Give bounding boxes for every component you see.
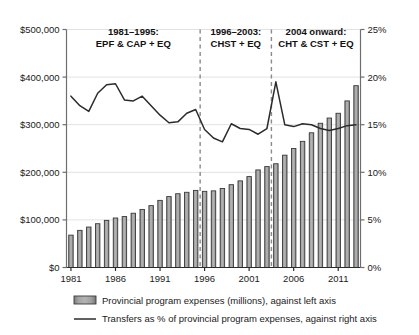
x-tick-label: 2011 <box>328 273 348 284</box>
transfers-vs-program-expenses-chart: $0$100,000$200,000$300,000$400,000$500,0… <box>0 0 419 335</box>
bar <box>256 170 260 268</box>
legend-item-line: Transfers as % of provincial program exp… <box>74 313 377 324</box>
bar <box>300 141 304 267</box>
bar-rect <box>327 118 331 267</box>
period-annotation-line2: EPF & CAP + EQ <box>96 38 171 49</box>
bar <box>265 167 269 268</box>
bar-rect <box>229 185 233 268</box>
x-tick-label: 1986 <box>105 273 126 284</box>
bar-rect <box>104 220 108 267</box>
y2-tick-label: 10% <box>368 167 388 178</box>
period-annotation: 2004 onward:CHT & CST + EQ <box>278 26 353 49</box>
y2-tick-label: 25% <box>368 24 388 35</box>
bar <box>291 149 295 268</box>
bar <box>247 177 251 268</box>
x-tick-label: 2006 <box>283 273 304 284</box>
bar <box>202 191 206 267</box>
period-annotation-line1: 1981–1995: <box>108 26 159 37</box>
bar <box>211 191 215 268</box>
period-annotation-line2: CHST + EQ <box>211 38 261 49</box>
period-annotation-line1: 1996–2003: <box>210 26 261 37</box>
bar-rect <box>78 230 82 267</box>
y2-tick-label: 0% <box>368 262 382 273</box>
bar-rect <box>122 217 126 268</box>
bar-rect <box>318 123 322 267</box>
legend-label-line: Transfers as % of provincial program exp… <box>102 313 377 324</box>
period-annotations: 1981–1995:EPF & CAP + EQ1996–2003:CHST +… <box>96 26 354 49</box>
bar-rect <box>354 86 358 268</box>
bar <box>113 218 117 268</box>
bar-rect <box>158 200 162 267</box>
bar <box>87 227 91 267</box>
y-tick-label: $0 <box>49 262 60 273</box>
bar-rect <box>87 227 91 267</box>
y-tick-label: $300,000 <box>20 119 60 130</box>
y2-tick-label: 20% <box>368 72 388 83</box>
x-tick-label: 1996 <box>194 273 215 284</box>
y2-tick-label: 5% <box>368 214 382 225</box>
bar <box>185 192 189 267</box>
bar-rect <box>291 149 295 268</box>
bar-rect <box>336 113 340 267</box>
period-annotation-line1: 2004 onward: <box>286 26 347 37</box>
legend-bar-swatch <box>74 296 96 304</box>
bar-rect <box>131 213 135 267</box>
bar-rect <box>238 181 242 268</box>
bar <box>140 209 144 267</box>
bar-rect <box>247 177 251 268</box>
bar <box>229 185 233 268</box>
y-tick-label: $500,000 <box>20 24 60 35</box>
y-tick-label: $100,000 <box>20 214 60 225</box>
x-tick-label: 1981 <box>60 273 81 284</box>
bar-rect <box>185 192 189 267</box>
bar <box>318 123 322 267</box>
bar-rect <box>167 197 171 268</box>
y-tick-label: $400,000 <box>20 72 60 83</box>
bar <box>327 118 331 267</box>
bar <box>193 190 197 267</box>
bar-rect <box>300 141 304 267</box>
bar <box>220 188 224 267</box>
bar-rect <box>149 206 153 268</box>
bar <box>69 235 73 267</box>
bar-rect <box>95 224 99 268</box>
bar-rect <box>140 209 144 267</box>
bar <box>354 86 358 268</box>
bar <box>283 155 287 267</box>
bar-rect <box>193 190 197 267</box>
bar-rect <box>309 133 313 268</box>
bar <box>238 181 242 268</box>
bar-rect <box>256 170 260 268</box>
legend-item-bars: Provincial program expenses (millions), … <box>74 295 336 306</box>
bar-rect <box>113 218 117 268</box>
period-annotation: 1996–2003:CHST + EQ <box>210 26 261 49</box>
bar <box>95 224 99 268</box>
bar-rect <box>220 188 224 267</box>
bar <box>167 197 171 268</box>
bar <box>158 200 162 267</box>
x-tick-label: 1991 <box>149 273 170 284</box>
x-tick-label: 2001 <box>239 273 260 284</box>
bar-rect <box>202 191 206 267</box>
bar <box>78 230 82 267</box>
y2-tick-label: 15% <box>368 119 388 130</box>
bar <box>274 164 278 268</box>
period-annotation-line2: CHT & CST + EQ <box>278 38 353 49</box>
bar-rect <box>69 235 73 267</box>
bar <box>122 217 126 268</box>
bar-rect <box>211 191 215 268</box>
bar <box>309 133 313 268</box>
bar-rect <box>176 194 180 268</box>
bar-rect <box>265 167 269 268</box>
bar <box>104 220 108 267</box>
bar <box>176 194 180 268</box>
bar-rect <box>283 155 287 267</box>
chart-container: $0$100,000$200,000$300,000$400,000$500,0… <box>0 0 419 335</box>
bar <box>336 113 340 267</box>
bar-rect <box>274 164 278 268</box>
bar <box>131 213 135 267</box>
legend-label-bars: Provincial program expenses (millions), … <box>102 295 336 306</box>
y-tick-label: $200,000 <box>20 167 60 178</box>
bar <box>149 206 153 268</box>
